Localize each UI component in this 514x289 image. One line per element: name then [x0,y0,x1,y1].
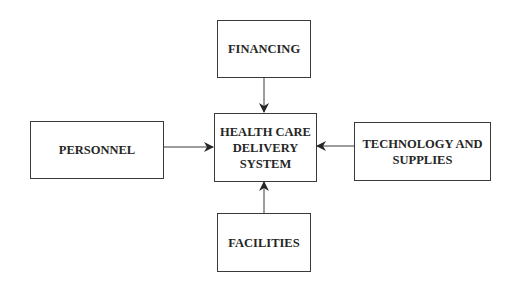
financing-box: FINANCING [217,20,311,78]
technology-and-supplies-box: TECHNOLOGY AND SUPPLIES [354,122,491,181]
personnel-label: PERSONNEL [59,142,135,158]
personnel-box: PERSONNEL [30,121,164,179]
health-care-delivery-system-box: HEALTH CARE DELIVERY SYSTEM [214,113,317,182]
financing-label: FINANCING [228,41,300,57]
facilities-label: FACILITIES [228,235,299,251]
facilities-box: FACILITIES [217,213,311,272]
center-label: HEALTH CARE DELIVERY SYSTEM [220,124,311,172]
technology-label: TECHNOLOGY AND SUPPLIES [362,136,482,168]
